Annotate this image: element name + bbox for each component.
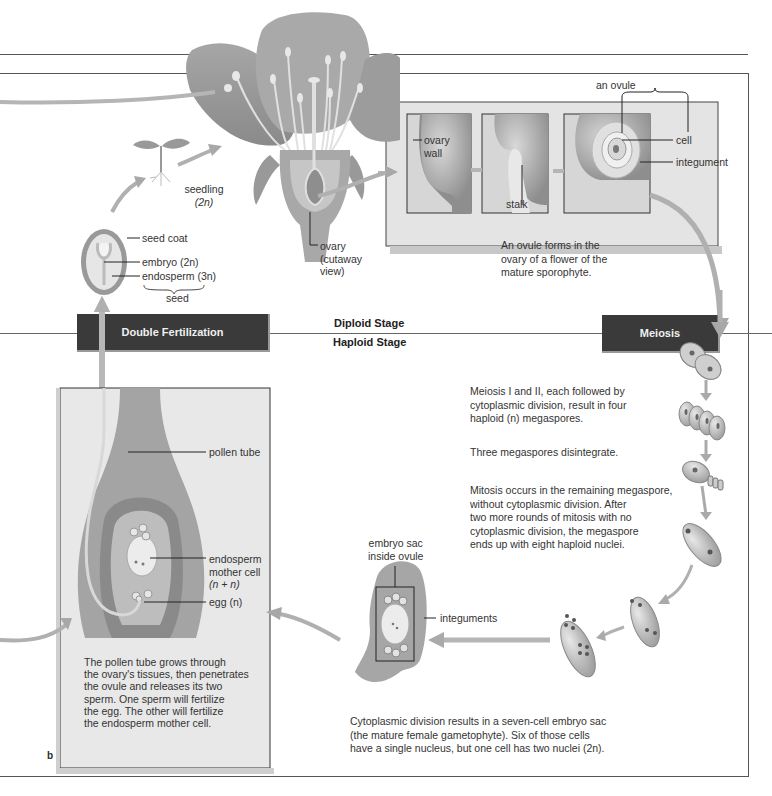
flower <box>186 12 400 262</box>
embryo-sac-illustration <box>355 561 436 682</box>
cell-label: cell <box>676 134 692 147</box>
diploid-stage-label: Diploid Stage <box>334 317 404 329</box>
egg-label: egg (n) <box>209 596 242 609</box>
ovule-formation-panel <box>378 102 722 254</box>
an-ovule-label: an ovule <box>596 79 636 92</box>
ovule-caption: An ovule forms in the ovary of a flower … <box>501 239 607 280</box>
haploid-stage-label: Haploid Stage <box>333 336 406 348</box>
endosperm-label: endosperm (3n) <box>142 270 216 283</box>
embryo-label: embryo (2n) <box>142 256 199 269</box>
pollen-tube-label: pollen tube <box>209 446 260 459</box>
stalk-label: stalk <box>506 198 528 211</box>
endosperm-mother-cell-label: endosperm mother cell (n + n) <box>209 553 262 591</box>
integument-label: integument <box>676 156 728 169</box>
pollination-arrow <box>0 92 215 103</box>
fertilization-caption: The pollen tube grows through the ovary'… <box>84 656 249 729</box>
ovary-label: ovary (cutaway view) <box>320 240 362 278</box>
integuments-label: integuments <box>440 612 497 625</box>
seed-coat-label: seed coat <box>142 232 188 245</box>
meiosis-label: Meiosis <box>640 327 680 339</box>
meiosis-box: Meiosis <box>602 315 720 353</box>
double-fertilization-label: Double Fertilization <box>121 326 223 338</box>
seed-label: seed <box>166 292 189 305</box>
ovary-wall-label: ovary wall <box>424 134 450 159</box>
double-fertilization-box: Double Fertilization <box>77 314 270 352</box>
meiosis-step1-caption: Meiosis I and II, each followed by cytop… <box>470 385 626 426</box>
meiosis-step2-caption: Three megaspores disintegrate. <box>470 446 618 460</box>
meiosis-step3-caption: Mitosis occurs in the remaining megaspor… <box>470 484 673 552</box>
panel-label-b: b <box>47 750 53 761</box>
seedling-label: seedling (2n) <box>178 183 230 208</box>
embryo-sac-label: embryo sac inside ovule <box>368 537 423 562</box>
embryo-sac-caption: Cytoplasmic division results in a seven-… <box>350 715 606 756</box>
